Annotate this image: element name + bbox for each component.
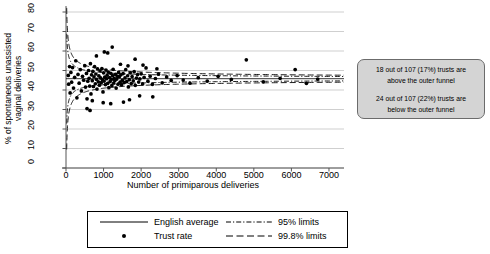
data-point bbox=[87, 76, 91, 80]
data-point bbox=[82, 78, 86, 82]
data-point bbox=[90, 99, 94, 103]
data-point bbox=[175, 74, 179, 78]
annotation-line-4: below the outer funnel bbox=[384, 104, 459, 115]
data-point bbox=[88, 109, 92, 113]
legend-swatch-dot bbox=[122, 234, 126, 238]
data-point bbox=[144, 66, 148, 70]
data-point bbox=[85, 97, 89, 101]
data-point bbox=[91, 70, 95, 74]
data-point bbox=[316, 77, 320, 81]
data-point bbox=[93, 65, 97, 69]
x-tick-6000: 6000 bbox=[271, 170, 311, 180]
annotation-line-1: 18 out of 107 (17%) trusts are bbox=[372, 64, 470, 75]
data-point bbox=[136, 73, 140, 77]
data-point bbox=[305, 82, 309, 86]
data-point bbox=[110, 45, 114, 49]
annotation-line-2: above the outer funnel bbox=[383, 75, 459, 86]
data-point bbox=[70, 80, 74, 84]
data-point bbox=[126, 64, 130, 68]
data-point bbox=[188, 81, 192, 85]
data-point bbox=[138, 94, 142, 98]
data-point bbox=[196, 76, 200, 80]
data-point bbox=[205, 79, 209, 83]
data-point bbox=[114, 86, 118, 90]
data-point bbox=[95, 87, 99, 91]
data-point bbox=[181, 78, 185, 82]
data-point bbox=[119, 62, 123, 66]
annotation-box: 18 out of 107 (17%) trusts are above the… bbox=[357, 59, 485, 119]
data-point bbox=[127, 78, 131, 82]
legend: English average Trust rate 95% limits 99… bbox=[87, 211, 348, 248]
legend-label-english-average: English average bbox=[154, 217, 219, 227]
legend-label-95-limits: 95% limits bbox=[278, 217, 319, 227]
data-point bbox=[121, 72, 125, 76]
x-tick-2000: 2000 bbox=[121, 170, 161, 180]
data-point bbox=[132, 70, 136, 74]
data-point bbox=[141, 82, 145, 86]
data-point bbox=[88, 84, 92, 88]
data-point bbox=[77, 81, 81, 85]
funnel-plot-figure: % of spontaneous unassisted vaginal deli… bbox=[0, 0, 490, 254]
axis-lines bbox=[62, 6, 344, 168]
data-point bbox=[122, 100, 126, 104]
data-point bbox=[128, 98, 132, 102]
data-point bbox=[146, 79, 150, 83]
x-tick-0: 0 bbox=[46, 170, 86, 180]
data-point bbox=[78, 68, 82, 72]
data-point bbox=[139, 72, 143, 76]
legend-label-998-limits: 99.8% limits bbox=[278, 231, 327, 241]
data-point bbox=[81, 75, 85, 79]
data-point bbox=[76, 73, 80, 77]
data-point bbox=[106, 51, 110, 55]
data-point bbox=[89, 92, 93, 96]
data-point bbox=[151, 95, 155, 99]
data-point bbox=[138, 77, 142, 81]
data-point bbox=[80, 89, 84, 93]
x-tick-5000: 5000 bbox=[234, 170, 274, 180]
data-point bbox=[148, 74, 152, 78]
data-point bbox=[130, 75, 134, 79]
x-tick-4000: 4000 bbox=[196, 170, 236, 180]
data-point bbox=[128, 71, 132, 75]
data-point bbox=[87, 69, 91, 73]
data-point bbox=[75, 96, 79, 100]
data-point bbox=[90, 79, 94, 83]
data-point bbox=[102, 50, 106, 54]
data-point bbox=[73, 75, 77, 79]
data-point bbox=[169, 79, 173, 83]
data-point bbox=[278, 76, 282, 80]
data-point bbox=[111, 67, 115, 71]
data-point bbox=[133, 83, 137, 87]
data-point bbox=[95, 54, 99, 58]
data-point bbox=[66, 74, 70, 78]
legend-label-trust-rate: Trust rate bbox=[154, 231, 192, 241]
data-point bbox=[69, 71, 73, 75]
x-tick-1000: 1000 bbox=[84, 170, 124, 180]
data-point bbox=[165, 75, 169, 79]
data-point bbox=[216, 75, 220, 79]
data-point bbox=[244, 58, 248, 62]
data-point bbox=[160, 81, 164, 85]
data-point bbox=[101, 101, 105, 105]
data-point bbox=[141, 63, 145, 67]
annotation-line-3: 24 out of 107 (22%) trusts are bbox=[372, 93, 470, 104]
data-point bbox=[155, 67, 159, 71]
data-point bbox=[131, 79, 135, 83]
data-point bbox=[151, 82, 155, 86]
data-point bbox=[135, 76, 139, 80]
data-point bbox=[84, 85, 88, 89]
data-point bbox=[127, 85, 131, 89]
x-tick-7000: 7000 bbox=[309, 170, 349, 180]
data-point bbox=[124, 68, 128, 72]
data-point bbox=[154, 77, 158, 81]
data-point bbox=[109, 102, 113, 106]
data-point bbox=[71, 66, 75, 70]
data-point bbox=[74, 59, 78, 63]
data-point bbox=[293, 68, 297, 72]
data-point bbox=[126, 74, 130, 78]
x-tick-3000: 3000 bbox=[159, 170, 199, 180]
data-point bbox=[89, 62, 93, 66]
data-point bbox=[261, 80, 265, 84]
data-point bbox=[68, 91, 72, 95]
data-point bbox=[101, 90, 105, 94]
